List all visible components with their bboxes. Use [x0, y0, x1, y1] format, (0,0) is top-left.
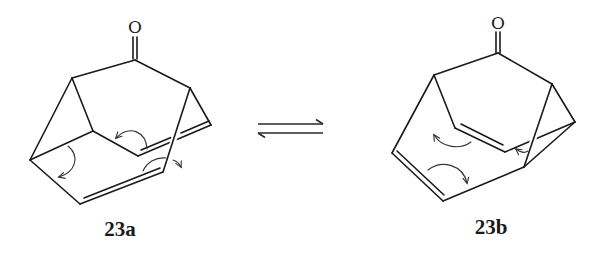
- oxygen-atom-label: O: [491, 13, 505, 33]
- curved-arrows: [428, 135, 528, 183]
- oxygen-atom-label: O: [128, 17, 142, 37]
- equilibrium-scheme: O: [0, 0, 607, 253]
- curved-arrow-icon: [143, 158, 166, 171]
- carbonyl-group: O: [128, 17, 142, 59]
- molecule-23b: O: [392, 13, 575, 239]
- compound-label-23b: 23b: [475, 215, 508, 239]
- curved-arrow-icon: [428, 164, 467, 183]
- equilibrium-arrows: [258, 120, 323, 138]
- carbonyl-group: O: [491, 13, 505, 53]
- bottom-alkene-double-bond: [80, 168, 163, 204]
- curved-arrow-icon: [516, 149, 528, 152]
- molecule-23a: O: [30, 17, 211, 241]
- front-bond: [163, 88, 190, 172]
- curved-arrow-icon: [434, 135, 471, 147]
- inner-alkene-double-bond: [455, 124, 505, 152]
- curved-arrow-icon: [59, 146, 75, 177]
- left-alkene-double-bond: [392, 151, 444, 201]
- compound-label-23a: 23a: [104, 217, 136, 241]
- curved-arrow-icon: [173, 160, 181, 167]
